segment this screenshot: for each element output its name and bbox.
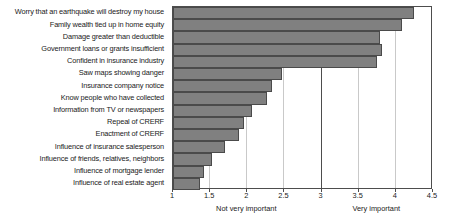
y-axis-category-labels: Worry that an earthquake will destroy my… — [0, 6, 168, 189]
bar — [173, 105, 252, 117]
bar-row — [173, 105, 433, 117]
bar-row — [173, 129, 433, 141]
x-tick-label: 1 — [170, 192, 174, 199]
x-tick-label: 1.5 — [204, 192, 214, 199]
anchor-label: Not very important — [216, 205, 276, 212]
y-axis-label: Government loans or grants insufficient — [41, 45, 164, 52]
bar — [173, 129, 239, 141]
bar-row — [173, 153, 433, 165]
y-axis-label: Damage greater than deductible — [63, 33, 164, 40]
y-axis-label: Saw maps showing danger — [79, 69, 164, 76]
bar-row — [173, 68, 433, 80]
bar-row — [173, 166, 433, 178]
y-axis-label: Confident in insurance industry — [67, 57, 164, 64]
y-axis-label: Repeal of CRERF — [107, 118, 164, 125]
bar — [173, 68, 282, 80]
y-axis-label: Influence of mortgage lender — [74, 167, 164, 174]
bar-row — [173, 19, 433, 31]
bar-row — [173, 141, 433, 153]
y-axis-label: Know people who have collected — [61, 94, 164, 101]
bar — [173, 141, 225, 153]
y-axis-label: Family wealth tied up in home equity — [50, 21, 164, 28]
plot-area — [172, 6, 432, 189]
bar-row — [173, 117, 433, 129]
y-axis-label: Influence of friends, relatives, neighbo… — [40, 155, 164, 162]
bar — [173, 7, 414, 19]
y-axis-label: Influence of insurance salesperson — [55, 143, 164, 150]
x-tick-label: 2.5 — [278, 192, 288, 199]
bar-row — [173, 80, 433, 92]
bar — [173, 92, 267, 104]
bar — [173, 117, 244, 129]
bar — [173, 31, 380, 43]
x-tick-label: 4.5 — [427, 192, 437, 199]
y-axis-label: Worry that an earthquake will destroy my… — [15, 8, 164, 15]
bar — [173, 19, 402, 31]
x-axis: 11.522.533.544.5 — [0, 189, 454, 201]
bar-row — [173, 56, 433, 68]
y-axis-label: Influence of real estate agent — [73, 179, 164, 186]
bar — [173, 44, 382, 56]
bar-row — [173, 92, 433, 104]
bar-chart: Worry that an earthquake will destroy my… — [0, 0, 454, 223]
x-tick-label: 4 — [393, 192, 397, 199]
bar — [173, 166, 204, 178]
y-axis-label: Enactment of CRERF — [96, 130, 164, 137]
bar-series — [173, 7, 431, 188]
y-axis-label: Information from TV or newspapers — [53, 106, 164, 113]
y-axis-label: Insurance company notice — [81, 82, 164, 89]
bar — [173, 153, 212, 165]
bar-row — [173, 7, 433, 19]
x-tick-label: 2 — [244, 192, 248, 199]
bar — [173, 56, 377, 68]
x-tick-label: 3.5 — [353, 192, 363, 199]
bar — [173, 80, 272, 92]
bar-row — [173, 31, 433, 43]
x-tick-label: 3 — [319, 192, 323, 199]
bar-row — [173, 44, 433, 56]
anchor-label: Very important — [352, 205, 400, 212]
